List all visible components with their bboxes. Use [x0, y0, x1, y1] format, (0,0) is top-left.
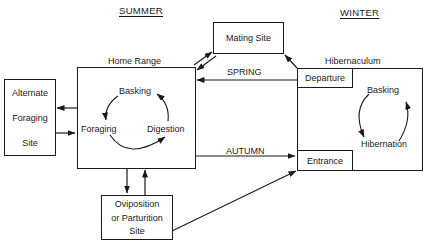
home-range-box [77, 67, 196, 169]
alternate-foraging-line-1: Alternate [12, 88, 48, 98]
oviposition-line-2: or Parturition [111, 213, 163, 223]
oviposition-line-1: Oviposition [115, 199, 160, 209]
alternate-foraging-line-3: Site [22, 138, 38, 148]
spring-label: SPRING [227, 67, 262, 77]
oviposition-site-box: Oviposition or Parturition Site [101, 195, 173, 240]
home-basking-label: Basking [119, 86, 151, 96]
home-range-label: Home Range [108, 56, 161, 66]
mating-site-box: Mating Site [213, 22, 284, 54]
alternate-foraging-site-box: Alternate Foraging Site [4, 79, 56, 156]
mating-to-home-arrow [197, 56, 216, 70]
departure-to-mating-arrow [285, 55, 297, 68]
departure-label: Departure [298, 73, 352, 83]
winter-label: WINTER [340, 8, 379, 18]
summer-label: SUMMER [119, 6, 163, 16]
mating-site-label: Mating Site [214, 33, 283, 43]
hibernaculum-basking-label: Basking [367, 85, 399, 95]
oviposition-site-text: Oviposition or Parturition Site [102, 196, 172, 239]
oviposition-line-3: Site [129, 226, 145, 236]
departure-box: Departure [297, 68, 353, 88]
home-to-mating-arrow [194, 52, 212, 65]
autumn-label: AUTUMN [226, 146, 265, 156]
alternate-foraging-line-2: Foraging [12, 113, 48, 123]
entrance-box: Entrance [297, 150, 353, 171]
home-digestion-label: Digestion [147, 124, 185, 134]
hibernaculum-label: Hibernaculum [325, 56, 381, 66]
entrance-label: Entrance [298, 156, 352, 166]
oviposition-to-entrance-arrow [172, 171, 296, 231]
alternate-foraging-site-text: Alternate Foraging Site [5, 80, 55, 155]
home-foraging-label: Foraging [81, 124, 117, 134]
hibernaculum-hibernation-label: Hibernation [361, 139, 407, 149]
